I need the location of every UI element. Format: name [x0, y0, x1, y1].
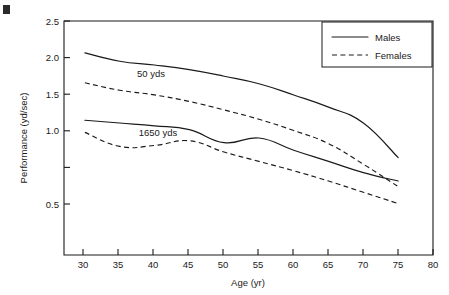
x-axis-title-text: Age (yr): [231, 277, 265, 288]
y-tick-label: 1.0: [46, 125, 59, 136]
chart-annotation-50-yds: 50 yds: [137, 68, 165, 79]
series-line-50-yds-females: [85, 83, 398, 187]
performance-vs-age-line-chart: 2.5 2.0 1.5 1.0 0.5 Performance (yd/sec): [0, 0, 449, 295]
x-axis-tick-labels: 30 35 40 45 50 55 60 65 70 75 80: [78, 259, 439, 270]
x-tick-label: 30: [78, 259, 89, 270]
x-tick-label: 55: [253, 259, 264, 270]
y-tick-label: 2.0: [46, 52, 59, 63]
x-axis-ticks: [83, 249, 433, 255]
chart-annotation-1650-yds: 1650 yds: [139, 127, 178, 138]
x-tick-label: 70: [358, 259, 369, 270]
chart-legend: Males Females: [322, 22, 432, 67]
y-tick-label: 2.5: [46, 16, 59, 27]
y-axis-title: Performance (yd/sec): [18, 93, 29, 184]
data-series-layer: [85, 53, 398, 204]
x-tick-label: 65: [323, 259, 334, 270]
x-tick-label: 50: [218, 259, 229, 270]
x-tick-label: 40: [148, 259, 159, 270]
series-line-50-yds-males: [85, 53, 398, 158]
y-axis-tick-labels: 2.5 2.0 1.5 1.0 0.5: [46, 16, 59, 210]
x-tick-label: 80: [428, 259, 439, 270]
x-tick-label: 45: [183, 259, 194, 270]
series-line-1650-yds-females: [85, 132, 398, 203]
figure-root: 2.5 2.0 1.5 1.0 0.5 Performance (yd/sec): [0, 0, 449, 295]
legend-label-males: Males: [375, 32, 401, 43]
series-line-1650-yds-males: [85, 120, 398, 181]
legend-label-females: Females: [375, 50, 412, 61]
y-axis-title-text: Performance (yd/sec): [18, 93, 29, 184]
chart-annotation-layer: 50 yds1650 yds: [137, 68, 178, 138]
figure-corner-mark: [3, 5, 10, 14]
x-tick-label: 75: [393, 259, 404, 270]
y-tick-label: 1.5: [46, 89, 59, 100]
x-tick-label: 35: [113, 259, 124, 270]
y-axis-ticks: [64, 21, 70, 204]
y-tick-label: 0.5: [46, 199, 59, 210]
x-tick-label: 60: [288, 259, 299, 270]
